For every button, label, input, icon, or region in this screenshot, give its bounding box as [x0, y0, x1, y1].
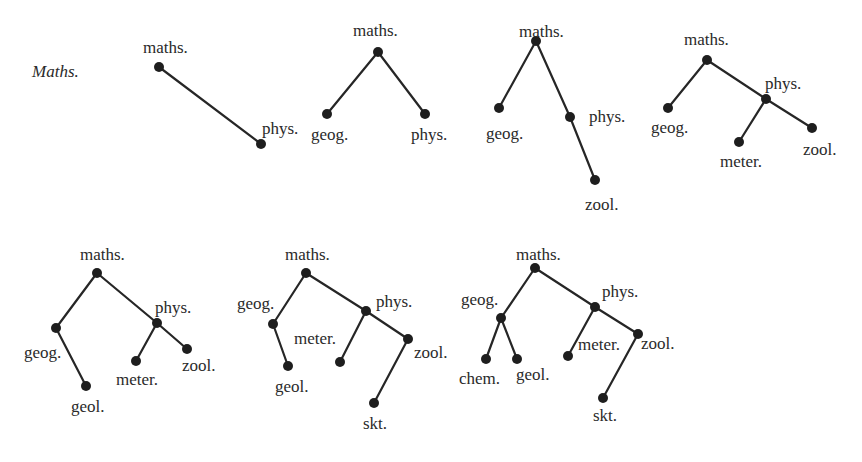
node-geog — [494, 103, 504, 113]
node-label-zool: zool. — [585, 195, 619, 214]
edge-phys-zool — [595, 307, 638, 334]
node-label-zool: zool. — [803, 140, 837, 159]
edge-geog-geol — [501, 318, 517, 359]
node-geog — [322, 109, 332, 119]
edge-maths-phys — [378, 52, 425, 114]
edge-maths-phys — [159, 67, 261, 144]
tree-sequence: maths.phys.maths.geog.phys.maths.geog.ph… — [24, 21, 837, 433]
node-label-phys: phys. — [155, 298, 191, 317]
node-label-phys: phys. — [589, 107, 625, 126]
node-label-phys: phys. — [765, 74, 801, 93]
node-geol — [283, 361, 293, 371]
node-geog — [268, 319, 278, 329]
node-label-meter: meter. — [720, 152, 762, 171]
node-maths — [92, 268, 102, 278]
node-label-maths: maths. — [285, 245, 330, 264]
node-phys — [565, 112, 575, 122]
node-meter — [734, 137, 744, 147]
edge-phys-meter — [739, 99, 766, 142]
edge-maths-phys — [306, 273, 366, 311]
edge-maths-phys — [536, 41, 570, 117]
node-label-geol: geol. — [275, 377, 309, 396]
edge-phys-zool — [766, 99, 812, 128]
node-zool — [403, 334, 413, 344]
edge-phys-zool — [570, 117, 595, 180]
tree-3: maths.geog.phys.zool. — [486, 22, 625, 214]
edge-maths-phys — [707, 60, 766, 99]
node-label-zool: zool. — [414, 343, 448, 362]
node-label-phys: phys. — [376, 292, 412, 311]
edge-geog-chem — [486, 318, 501, 359]
tree-4: maths.geog.phys.meter.zool. — [651, 30, 837, 171]
node-skt — [598, 393, 608, 403]
node-phys — [361, 306, 371, 316]
node-zool — [590, 175, 600, 185]
node-phys — [256, 139, 266, 149]
node-label-skt: skt. — [363, 414, 387, 433]
node-zool — [182, 344, 192, 354]
node-phys — [152, 318, 162, 328]
node-label-zool: zool. — [641, 334, 675, 353]
edge-maths-phys — [535, 268, 595, 307]
node-label-geog: geog. — [651, 118, 688, 137]
node-label-chem: chem. — [459, 369, 500, 388]
node-maths — [702, 55, 712, 65]
node-label-geol: geol. — [516, 365, 550, 384]
node-label-maths: maths. — [143, 38, 188, 57]
node-label-phys: phys. — [262, 119, 298, 138]
edge-zool-skt — [374, 339, 408, 403]
node-geog — [496, 313, 506, 323]
tree-7: maths.geog.chem.geol.phys.meter.zool.skt… — [459, 245, 675, 425]
tree-growth-diagram: Maths. maths.phys.maths.geog.phys.maths.… — [0, 0, 862, 462]
edge-maths-geog — [501, 268, 535, 318]
edge-phys-meter — [340, 311, 366, 362]
node-label-maths: maths. — [80, 245, 125, 264]
node-geol — [81, 381, 91, 391]
node-maths — [530, 263, 540, 273]
edge-geog-geol — [273, 324, 288, 366]
node-label-geog: geog. — [461, 290, 498, 309]
node-maths — [154, 62, 164, 72]
edge-maths-geog — [327, 52, 378, 114]
node-skt — [369, 398, 379, 408]
edge-maths-geog — [499, 41, 536, 108]
node-zool — [807, 123, 817, 133]
tree-5: maths.geog.geol.phys.meter.zool. — [24, 245, 216, 416]
edge-maths-geog — [668, 60, 707, 108]
tree-2: maths.geog.phys. — [311, 21, 447, 144]
node-label-geog: geog. — [486, 124, 523, 143]
node-meter — [131, 356, 141, 366]
node-geog — [663, 103, 673, 113]
node-geog — [51, 323, 61, 333]
node-label-phys: phys. — [602, 282, 638, 301]
tree-6: maths.geog.geol.phys.meter.zool.skt. — [237, 245, 448, 433]
tree-1: maths.phys. — [143, 38, 298, 149]
node-label-meter: meter. — [578, 335, 620, 354]
node-label-geog: geog. — [24, 343, 61, 362]
node-label-geol: geol. — [71, 397, 105, 416]
node-phys — [761, 94, 771, 104]
node-label-phys: phys. — [411, 125, 447, 144]
node-label-maths: maths. — [516, 245, 561, 264]
node-meter — [563, 351, 573, 361]
node-maths — [373, 47, 383, 57]
edge-maths-phys — [97, 273, 157, 323]
node-geol — [512, 354, 522, 364]
edge-phys-meter — [136, 323, 157, 361]
edge-phys-zool — [366, 311, 408, 339]
node-label-maths: maths. — [353, 21, 398, 40]
node-label-zool: zool. — [182, 356, 216, 375]
figure-title: Maths. — [31, 62, 79, 81]
edge-phys-zool — [157, 323, 187, 349]
edge-maths-geog — [56, 273, 97, 328]
node-label-maths: maths. — [684, 30, 729, 49]
node-label-meter: meter. — [116, 370, 158, 389]
node-phys — [420, 109, 430, 119]
node-phys — [590, 302, 600, 312]
node-label-meter: meter. — [294, 329, 336, 348]
node-meter — [335, 357, 345, 367]
node-chem — [481, 354, 491, 364]
node-label-maths: maths. — [519, 22, 564, 41]
edge-maths-geog — [273, 273, 306, 324]
node-maths — [301, 268, 311, 278]
